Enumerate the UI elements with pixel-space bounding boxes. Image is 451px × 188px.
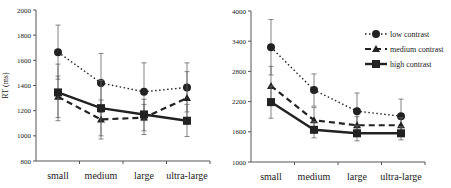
legend-label: low contrast [390, 30, 430, 39]
y-tick-label: 1600 [17, 57, 32, 65]
high-contrast-line [271, 102, 401, 133]
legend-item-low-contrast: low contrast [365, 30, 430, 39]
low-contrast-circle-marker [54, 48, 62, 56]
medium-contrast-line [271, 86, 401, 125]
series-high-contrast [54, 64, 191, 136]
y-axis-label: RT (ms) [1, 72, 10, 99]
low-contrast-circle-marker [267, 43, 275, 51]
legend-label: medium contrast [390, 45, 444, 54]
high-contrast-square-marker [183, 117, 191, 125]
high-contrast-square-marker [267, 98, 275, 106]
x-tick-label: large [347, 171, 367, 182]
high-contrast-square-marker [397, 129, 405, 137]
low-contrast-line [271, 47, 401, 116]
y-tick-label: 1000 [232, 159, 247, 167]
y-tick-label: 1800 [17, 32, 32, 40]
x-tick-label: ultra-large [166, 170, 208, 181]
y-tick-label: 2000 [17, 7, 32, 15]
y-tick-label: 800 [21, 158, 32, 166]
high-contrast-square-marker [310, 126, 318, 134]
y-tick-label: 1000 [17, 132, 32, 140]
y-tick-label: 2800 [232, 68, 247, 76]
figure: 800100012001400160018002000smallmediumla… [0, 0, 451, 188]
left-chart: 800100012001400160018002000smallmediumla… [1, 7, 210, 182]
low-contrast-circle-marker [140, 88, 148, 96]
x-tick-label: medium [85, 170, 118, 181]
high-contrast-square-marker [54, 88, 62, 96]
legend: low contrastmedium contrasthigh contrast [365, 30, 444, 69]
y-tick-label: 3400 [232, 38, 247, 46]
legend-label: high contrast [390, 60, 432, 69]
x-tick-label: small [260, 171, 282, 182]
high-contrast-square-marker [97, 104, 105, 112]
legend-item-high-contrast: high contrast [365, 60, 432, 69]
x-tick-label: small [47, 170, 69, 181]
legend-item-medium-contrast: medium contrast [365, 45, 444, 54]
legend-low-contrast-circle-marker [372, 30, 380, 38]
legend-high-contrast-square-marker [372, 60, 380, 68]
x-tick-label: large [134, 170, 154, 181]
y-tick-label: 1400 [17, 82, 32, 90]
series-medium-contrast [54, 72, 191, 139]
y-tick-label: 2200 [232, 98, 247, 106]
high-contrast-square-marker [353, 129, 361, 137]
medium-contrast-triangle-marker [183, 94, 191, 101]
x-tick-label: ultra-large [380, 171, 422, 182]
y-tick-label: 1600 [232, 128, 247, 136]
y-tick-label: 4000 [232, 8, 247, 16]
low-contrast-line [58, 52, 187, 92]
high-contrast-square-marker [140, 110, 148, 118]
y-tick-label: 1200 [17, 107, 32, 115]
low-contrast-circle-marker [353, 107, 361, 115]
series-low-contrast [267, 20, 405, 134]
x-tick-label: medium [298, 171, 331, 182]
series-high-contrast [267, 86, 405, 141]
low-contrast-circle-marker [310, 86, 318, 94]
